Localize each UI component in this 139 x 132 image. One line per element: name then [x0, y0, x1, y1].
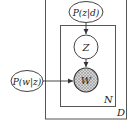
node-topic-given-doc-label: P(z|d): [72, 8, 100, 19]
node-z-label: Z: [82, 42, 91, 53]
plate-n-label: N: [103, 94, 114, 105]
plate-diagram: D N P(z|d) Z W P(w|z): [0, 0, 139, 132]
node-word-given-topic-label: P(w|z): [12, 77, 42, 88]
node-topic-given-doc: P(z|d): [69, 2, 103, 23]
node-word-given-topic: P(w|z): [11, 71, 43, 92]
node-z: Z: [74, 35, 98, 59]
node-w: W: [74, 68, 98, 92]
plate-d-label: D: [116, 107, 125, 118]
node-w-label: W: [81, 75, 92, 86]
